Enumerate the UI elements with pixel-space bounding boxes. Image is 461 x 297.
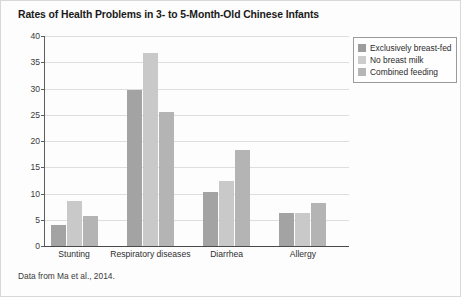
bar [127,90,142,246]
bar-group [203,36,250,246]
legend-label: Exclusively breast-fed [370,43,451,53]
y-tick-label: 40 [30,31,40,41]
y-tick-label: 35 [30,57,40,67]
y-tick-mark [41,89,44,90]
legend-item[interactable]: No breast milk [358,54,451,66]
bar-group [51,36,98,246]
legend-label: No breast milk [370,55,424,65]
y-tick-mark [41,36,44,37]
y-tick-label: 20 [30,136,40,146]
category-label: Allergy [248,249,358,260]
bar [203,192,218,246]
bar [83,216,98,246]
y-tick-label: 30 [30,84,40,94]
chart-figure: Rates of Health Problems in 3- to 5-Mont… [0,0,461,297]
bar [279,213,294,246]
bar [159,112,174,246]
y-tick-mark [41,115,44,116]
y-tick-label: 25 [30,110,40,120]
y-tick-label: 15 [30,162,40,172]
legend-swatch-icon [358,68,366,76]
bar [51,225,66,246]
y-tick-mark [41,141,44,142]
chart-legend: Exclusively breast-fedNo breast milkComb… [353,37,457,83]
bar-group [127,36,174,246]
bar [311,203,326,246]
y-tick-mark [41,220,44,221]
y-tick-mark [41,62,44,63]
bar-group [279,36,326,246]
y-tick-mark [41,167,44,168]
y-tick-mark [41,246,44,247]
bar [219,181,234,246]
y-tick-label: 10 [30,189,40,199]
legend-label: Combined feeding [370,67,438,77]
bar [295,213,310,246]
chart-title: Rates of Health Problems in 3- to 5-Mont… [18,9,319,20]
bar [67,201,82,246]
legend-swatch-icon [358,44,366,52]
x-axis-line [44,246,349,247]
y-tick-label: 5 [35,215,40,225]
source-note: Data from Ma et al., 2014. [18,271,115,281]
bar [143,53,158,246]
bar [235,150,250,246]
legend-swatch-icon [358,56,366,64]
y-tick-mark [41,194,44,195]
legend-item[interactable]: Combined feeding [358,66,451,78]
legend-item[interactable]: Exclusively breast-fed [358,42,451,54]
plot-area: 0510152025303540 StuntingRespiratory dis… [44,36,349,247]
